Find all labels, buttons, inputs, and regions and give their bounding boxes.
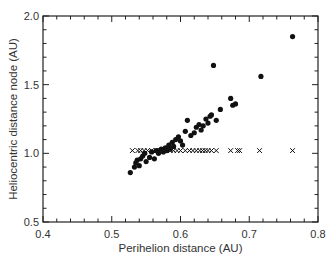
dot-marker: [228, 96, 233, 101]
cross-marker: [178, 148, 183, 153]
dot-marker: [144, 159, 149, 164]
dot-marker: [128, 170, 133, 175]
scatter-chart: 0.40.50.60.70.80.51.01.52.0 Perihelion d…: [0, 0, 336, 265]
dot-marker: [201, 123, 206, 128]
cross-marker: [130, 148, 135, 153]
axis-tick-labels: 0.40.50.60.70.80.51.01.52.0: [24, 10, 326, 240]
cross-marker: [228, 148, 233, 153]
dot-marker: [290, 34, 295, 39]
cross-marker: [183, 148, 188, 153]
dot-marker: [180, 142, 185, 147]
x-axis-title: Perihelion distance (AU): [118, 242, 242, 254]
dot-marker: [185, 118, 190, 123]
y-tick-label: 1.0: [24, 147, 39, 159]
cross-marker: [145, 148, 150, 153]
x-tick-label: 0.6: [173, 228, 188, 240]
dot-marker: [192, 130, 197, 135]
x-tick-label: 0.5: [104, 228, 119, 240]
dot-marker: [205, 121, 210, 126]
dot-marker: [258, 74, 263, 79]
dot-marker: [233, 101, 238, 106]
dot-marker: [209, 112, 214, 117]
dot-marker: [147, 155, 152, 160]
dot-marker: [218, 107, 223, 112]
y-tick-label: 2.0: [24, 10, 39, 22]
data-points: [128, 34, 295, 175]
dot-marker: [152, 156, 157, 161]
y-tick-label: 1.5: [24, 79, 39, 91]
cross-marker: [209, 148, 214, 153]
x-tick-label: 0.7: [242, 228, 257, 240]
cross-marker: [214, 148, 219, 153]
dot-series: [128, 34, 295, 175]
y-axis-title: Heliocentric distance node (AU): [7, 38, 19, 200]
x-tick-label: 0.4: [35, 228, 50, 240]
cross-marker: [290, 148, 295, 153]
dot-marker: [137, 163, 142, 168]
cross-marker: [257, 148, 262, 153]
plot-frame: [43, 16, 318, 222]
dot-marker: [214, 118, 219, 123]
dot-marker: [183, 129, 188, 134]
x-tick-label: 0.8: [310, 228, 325, 240]
axis-ticks: [43, 16, 318, 222]
dot-marker: [211, 63, 216, 68]
y-tick-label: 0.5: [24, 216, 39, 228]
